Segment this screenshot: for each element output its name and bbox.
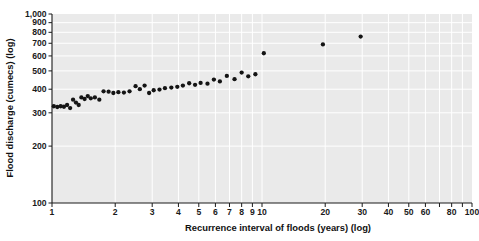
x-axis-title: Recurrence interval of floods (years) (l… (185, 222, 371, 233)
data-point (232, 77, 236, 81)
data-point (218, 79, 222, 83)
data-point (212, 77, 216, 81)
tick-label-x: 60 (421, 207, 431, 217)
data-point (225, 74, 229, 78)
data-point (253, 72, 257, 76)
tick-label-x: 3 (150, 207, 155, 217)
data-point (138, 87, 142, 91)
x-axis-ticks (52, 203, 472, 207)
data-point (89, 96, 93, 100)
tick-label-x: 6 (213, 207, 218, 217)
data-point (205, 82, 209, 86)
data-point (169, 85, 173, 89)
tick-label-x: 50 (404, 207, 414, 217)
data-point (127, 89, 131, 93)
data-point (111, 91, 115, 95)
tick-label-x: 20 (320, 207, 330, 217)
data-point (106, 90, 110, 94)
data-point (77, 103, 81, 107)
data-point (175, 85, 179, 89)
data-point (133, 84, 137, 88)
tick-label-x: 100 (465, 207, 479, 217)
data-point (116, 90, 120, 94)
tick-label-x: 80 (447, 207, 457, 217)
tick-label-x: 4 (176, 207, 181, 217)
data-point (65, 103, 69, 107)
data-point (163, 86, 167, 90)
data-point (181, 83, 185, 87)
tick-label-x: 2 (113, 207, 118, 217)
data-point (246, 74, 250, 78)
tick-label-y: 800 (32, 27, 47, 37)
tick-label-y: 600 (32, 51, 47, 61)
data-point (101, 89, 105, 93)
data-point (82, 97, 86, 101)
data-point (152, 88, 156, 92)
tick-label-x: 9 (250, 207, 255, 217)
data-point (142, 83, 146, 87)
data-point (187, 81, 191, 85)
tick-label-y: 200 (32, 141, 47, 151)
data-point (262, 51, 266, 55)
data-point (193, 83, 197, 87)
data-point (97, 98, 101, 102)
tick-label-y: 1,000 (25, 9, 47, 19)
tick-label-y: 300 (32, 108, 47, 118)
tick-label-y: 900 (32, 17, 47, 27)
tick-label-x: 10 (257, 207, 267, 217)
tick-label-y: 100 (32, 198, 47, 208)
tick-label-y: 400 (32, 84, 47, 94)
data-point (240, 70, 244, 74)
data-point (122, 90, 126, 94)
tick-label-x: 5 (196, 207, 201, 217)
y-axis-title: Flood discharge (cumecs) (log) (4, 38, 15, 177)
data-point (93, 95, 97, 99)
tick-label-x: 40 (384, 207, 394, 217)
tick-label-x: 8 (239, 207, 244, 217)
data-point (68, 106, 72, 110)
data-point (157, 87, 161, 91)
tick-label-y: 700 (32, 38, 47, 48)
data-point (198, 81, 202, 85)
data-point (359, 34, 363, 38)
tick-label-y: 500 (32, 66, 47, 76)
tick-label-x: 7 (227, 207, 232, 217)
flood-frequency-scatter-chart: 1002003004005006007008009001,000 1234567… (0, 0, 479, 241)
chart-svg: 1002003004005006007008009001,000 1234567… (0, 0, 479, 241)
data-point (147, 91, 151, 95)
data-point (321, 42, 325, 46)
tick-label-x: 1 (50, 207, 55, 217)
tick-label-x: 30 (357, 207, 367, 217)
